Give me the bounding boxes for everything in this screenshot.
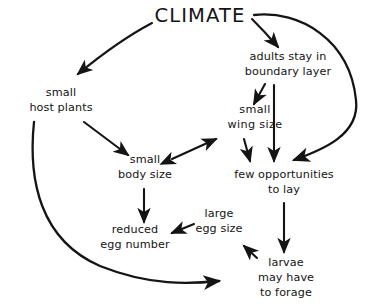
node-small-host-plants: small host plants [22, 86, 100, 116]
node-adults-stay-line-1: adults stay in [233, 50, 343, 65]
node-larvae-line-2: may have [253, 271, 319, 286]
node-reduced-egg-number-line-2: egg number [96, 238, 174, 253]
node-larvae-may-have-to-forage: larvae may have to forage [253, 256, 319, 300]
node-small-wing-size: small wing size [218, 103, 292, 133]
node-reduced-egg-number-line-1: reduced [96, 223, 174, 238]
node-adults-stay: adults stay in boundary layer [233, 50, 343, 80]
node-large-egg-size-line-2: egg size [191, 222, 247, 237]
edge-climate-to-host [78, 23, 152, 74]
edge-host-to-body [84, 122, 128, 155]
node-few-opportunities-to-lay: few opportunities to lay [227, 168, 341, 198]
node-few-opportunities-line-1: few opportunities [227, 168, 341, 183]
edge-climate-to-few-opps [254, 14, 356, 160]
edge-wing-to-few-opps [244, 139, 250, 161]
node-climate: CLIMATE [140, 3, 260, 29]
node-small-wing-size-line-2: wing size [218, 118, 292, 133]
climate-flow-diagram: CLIMATE adults stay in boundary layer sm… [0, 0, 365, 307]
node-larvae-line-3: to forage [253, 286, 319, 301]
node-small-body-size-line-2: body size [112, 168, 178, 183]
node-large-egg-size-line-1: large [191, 207, 247, 222]
node-few-opportunities-line-2: to lay [227, 183, 341, 198]
node-small-wing-size-line-1: small [218, 103, 292, 118]
edge-adults-to-wing [254, 84, 265, 104]
node-larvae-line-1: larvae [253, 256, 319, 271]
node-small-body-size: small body size [112, 153, 178, 183]
edge-host-to-larvae-curve [33, 122, 219, 283]
edge-body-wing-bidirectional [172, 139, 216, 159]
node-small-host-plants-line-1: small [22, 86, 100, 101]
node-large-egg-size: large egg size [191, 207, 247, 237]
node-climate-line-1: CLIMATE [140, 3, 260, 29]
node-adults-stay-line-2: boundary layer [233, 65, 343, 80]
node-reduced-egg-number: reduced egg number [96, 223, 174, 253]
node-small-host-plants-line-2: host plants [22, 101, 100, 116]
node-small-body-size-line-1: small [112, 153, 178, 168]
